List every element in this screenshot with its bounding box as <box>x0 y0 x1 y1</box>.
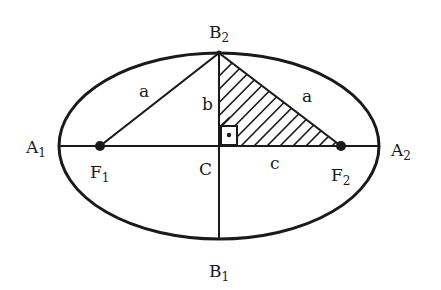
label-a2: A2 <box>390 140 411 163</box>
label-f2: F2 <box>331 165 350 188</box>
label-f1: F1 <box>90 162 109 185</box>
label-segment-b: b <box>202 94 213 114</box>
label-b1: B1 <box>209 261 229 284</box>
focus-f1-point <box>95 141 105 151</box>
label-a1: A1 <box>25 137 46 160</box>
label-segment-c: c <box>270 153 280 173</box>
right-angle-dot <box>227 133 231 137</box>
focus-f2-point <box>336 141 346 151</box>
vertex-b2-point <box>217 51 222 56</box>
label-b2: B2 <box>209 22 229 45</box>
label-center-c: C <box>199 159 212 179</box>
label-segment-a-right: a <box>302 86 312 106</box>
label-segment-a-left: a <box>139 81 149 101</box>
ellipse-diagram: B2 B1 A1 A2 F1 F2 C a a b c <box>0 0 441 290</box>
